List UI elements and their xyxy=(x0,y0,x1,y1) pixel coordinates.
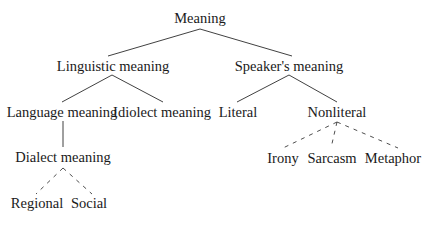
edge-nonliteral-to-irony xyxy=(283,122,337,148)
edge-dialect-to-regional xyxy=(36,168,63,194)
edge-linguistic-to-idiolect xyxy=(112,75,163,102)
edges-nonliteral xyxy=(283,122,398,148)
edges-root xyxy=(108,29,292,56)
node-literal: Literal xyxy=(219,104,258,120)
node-social: Social xyxy=(71,195,107,211)
edges-speaker xyxy=(237,75,337,102)
edge-speaker-to-literal xyxy=(237,75,289,102)
edge-nonliteral-to-sarcasm xyxy=(331,122,337,148)
edge-linguistic-to-language xyxy=(62,75,112,102)
edge-speaker-to-nonliteral xyxy=(289,75,337,102)
edges-linguistic xyxy=(62,75,163,102)
node-irony: Irony xyxy=(267,150,299,166)
node-nonliteral: Nonliteral xyxy=(308,104,367,120)
node-regional: Regional xyxy=(11,195,63,211)
edge-meaning-to-speaker xyxy=(200,29,292,56)
edge-nonliteral-to-metaphor xyxy=(337,122,398,148)
node-linguistic-meaning: Linguistic meaning xyxy=(57,58,169,74)
node-sarcasm: Sarcasm xyxy=(307,150,357,166)
edge-dialect-to-social xyxy=(63,168,92,194)
node-meaning: Meaning xyxy=(174,10,226,26)
node-language-meaning: Language meaning xyxy=(7,104,118,120)
edge-meaning-to-linguistic xyxy=(108,29,200,56)
node-idiolect-meaning: Idiolect meaning xyxy=(113,104,211,120)
meaning-tree-diagram: Meaning Linguistic meaning Speaker's mea… xyxy=(0,0,429,225)
edges-dialect xyxy=(36,168,92,194)
node-metaphor: Metaphor xyxy=(365,150,422,166)
node-dialect-meaning: Dialect meaning xyxy=(15,149,110,165)
node-speakers-meaning: Speaker's meaning xyxy=(235,58,344,74)
